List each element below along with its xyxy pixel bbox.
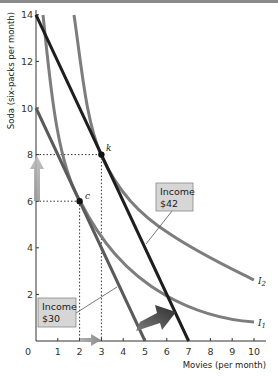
point-c-label: c xyxy=(85,191,90,201)
curve-label-i1: I1 xyxy=(257,318,266,330)
leader-line-30 xyxy=(76,287,117,313)
income-30-line1: Income xyxy=(42,301,77,312)
curve-label-i2: I2 xyxy=(257,276,267,288)
arrow-right-icon xyxy=(80,334,101,346)
x-tick-label: 0 xyxy=(25,346,31,357)
x-tick-label: 10 xyxy=(248,346,260,357)
arrow-up-icon xyxy=(30,156,44,201)
x-tick-label: 4 xyxy=(120,346,126,357)
indifference-curve-i1 xyxy=(43,15,254,322)
x-tick-label: 1 xyxy=(55,346,61,357)
income-42-label: Income $42 xyxy=(156,183,195,211)
y-tick-label: 14 xyxy=(21,9,33,20)
chart: 0 1 2 3 4 5 6 7 8 9 10 Movies (per month… xyxy=(0,0,278,378)
shift-arrow-icon xyxy=(136,305,176,331)
income-42-line2: $42 xyxy=(160,198,178,209)
y-tick-label: 4 xyxy=(27,242,33,253)
x-tick-label: 3 xyxy=(98,346,104,357)
point-k-label: k xyxy=(106,143,111,153)
indifference-curve-i2 xyxy=(74,15,254,280)
x-axis-label: Movies (per month) xyxy=(183,360,266,370)
y-tick-label: 2 xyxy=(27,289,33,300)
income-30-line2: $30 xyxy=(42,313,60,324)
y-axis-label: Soda (six-packs per month) xyxy=(6,12,16,129)
x-tick-label: 5 xyxy=(142,346,148,357)
x-tick-label: 6 xyxy=(164,346,170,357)
y-tick-label: 10 xyxy=(21,103,33,114)
point-k xyxy=(98,151,104,157)
y-tick-label: 8 xyxy=(27,149,33,160)
point-c xyxy=(76,198,82,204)
x-tick-label: 2 xyxy=(77,346,83,357)
x-tick-label: 7 xyxy=(186,346,192,357)
leader-line-42 xyxy=(146,211,172,244)
budget-line-42 xyxy=(36,15,189,341)
income-30-label: Income $30 xyxy=(38,298,77,327)
x-tick-label: 8 xyxy=(207,346,213,357)
x-tick-label: 9 xyxy=(229,346,235,357)
income-42-line1: Income xyxy=(160,186,195,197)
y-tick-label: 6 xyxy=(27,196,33,207)
y-tick-label: 12 xyxy=(21,56,33,67)
